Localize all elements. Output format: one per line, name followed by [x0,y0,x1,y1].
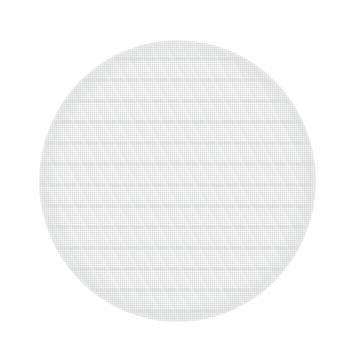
image-canvas [0,0,343,356]
woven-mesh-disc [39,40,316,322]
disc-rim-shading [39,40,316,322]
